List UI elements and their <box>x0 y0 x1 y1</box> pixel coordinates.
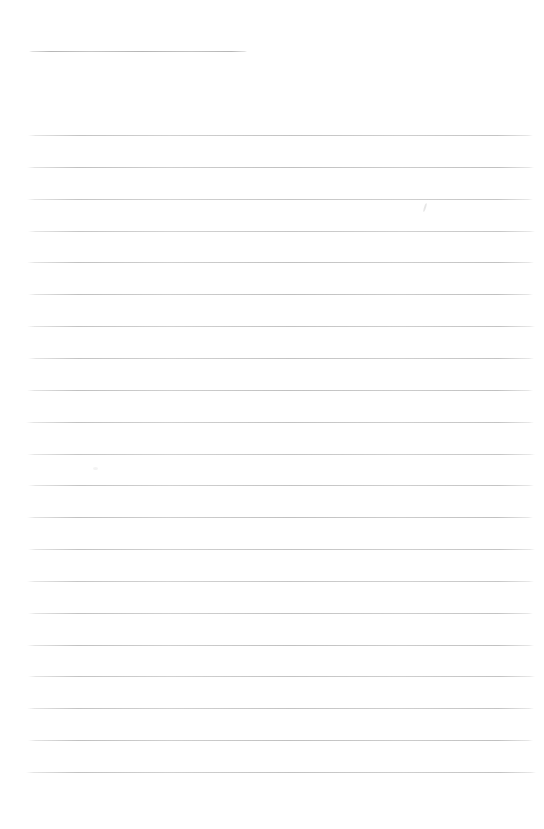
ruled-line <box>28 294 533 295</box>
ruled-line <box>28 135 533 136</box>
ruled-line <box>27 581 534 582</box>
ruled-line <box>28 549 535 550</box>
ruled-line <box>27 199 533 200</box>
ruled-line <box>27 708 534 709</box>
ruled-line <box>26 422 534 423</box>
ruled-line <box>27 167 534 168</box>
ruled-line <box>28 740 533 741</box>
ruled-line <box>27 326 535 327</box>
ruled-line <box>26 772 536 773</box>
ruled-line <box>28 676 535 677</box>
header-underline <box>29 51 247 52</box>
ruled-line <box>27 262 534 263</box>
scan-smudge <box>423 203 428 212</box>
ruled-line <box>27 454 535 455</box>
ruled-line <box>27 517 533 518</box>
scan-smudge <box>93 467 98 470</box>
ruled-line <box>28 358 534 359</box>
ruled-line <box>27 390 533 391</box>
ruled-line <box>28 485 534 486</box>
ruled-line <box>27 645 534 646</box>
scanned-lined-page <box>0 0 544 829</box>
ruled-line <box>28 613 533 614</box>
ruled-line <box>28 231 535 232</box>
